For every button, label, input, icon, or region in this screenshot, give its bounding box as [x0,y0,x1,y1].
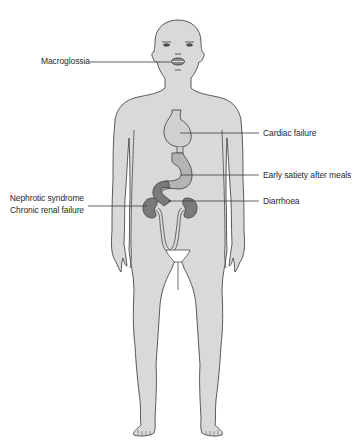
body-figure [0,0,359,448]
left-eye [164,44,170,46]
label-macroglossia: Macroglossia [41,56,90,66]
label-nephrotic-syndrome: Nephrotic syndrome [10,193,84,203]
label-cardiac-failure: Cardiac failure [263,128,316,138]
left-kidney [143,198,157,218]
esophagus [177,147,183,153]
label-chronic-renal-failure: Chronic renal failure [10,205,84,215]
right-eye [187,44,193,46]
label-early-satiety: Early satiety after meals [263,170,351,180]
label-diarrhoea: Diarrhoea [263,196,299,206]
anatomy-diagram: Macroglossia Cardiac failure Early satie… [0,0,359,448]
